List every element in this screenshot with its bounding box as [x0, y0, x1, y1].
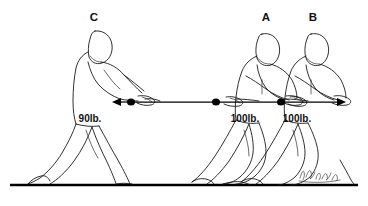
scene-canvas: C 90lb. [0, 0, 368, 206]
person-b-far-leg [340, 160, 355, 185]
tug-of-war-diagram: C 90lb. [0, 0, 368, 206]
person-b-chin [306, 57, 318, 64]
person-a-shoulder [270, 64, 297, 98]
person-c-shoulder [101, 62, 142, 93]
person-a-back [235, 56, 257, 120]
person-a-head [256, 34, 280, 66]
person-b-arm-upper [295, 76, 338, 100]
rope-knot-middle [212, 98, 220, 105]
person-c-back-leg-outer [28, 124, 76, 184]
force-arrow-right-head [337, 98, 346, 106]
person-c-torso-fold [104, 70, 120, 89]
person-b-label: B [309, 11, 317, 23]
person-a-back-leg-outer [192, 120, 236, 182]
person-a-arm-upper [246, 76, 289, 100]
person-c-force-label: 90lb. [79, 113, 102, 124]
rope-knot-left [127, 98, 135, 105]
person-b-chest [306, 65, 334, 100]
force-arrow-left-head [112, 98, 121, 106]
person-b-back-leg-outer [241, 120, 285, 182]
person-b-figure: B 100lb. [241, 11, 355, 185]
person-c-hand-front [137, 96, 155, 106]
person-a-chin [257, 57, 269, 64]
person-c-label: C [90, 11, 98, 23]
person-b-force-label: 100lb. [283, 113, 312, 124]
rope-knot-right [277, 98, 285, 105]
person-a-chest [257, 65, 285, 100]
person-a-label: A [262, 11, 270, 23]
person-c-waist [76, 124, 99, 126]
person-c-thigh-crease [86, 130, 98, 158]
person-c-head [88, 31, 112, 64]
person-b-head [305, 34, 329, 66]
rope-and-arrows [112, 98, 346, 106]
person-c-figure: C 90lb. [28, 11, 160, 184]
person-b-shoulder [319, 64, 346, 98]
person-c-upper-arm [124, 75, 144, 91]
person-a-figure: A 100lb. [192, 11, 303, 185]
person-c-hand-back [145, 99, 160, 101]
person-a-force-label: 100lb. [231, 113, 260, 124]
